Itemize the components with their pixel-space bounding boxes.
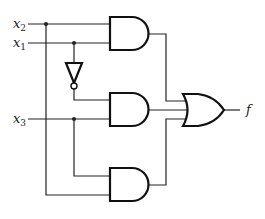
or-gate xyxy=(183,94,224,126)
label-x2: x2 xyxy=(13,16,26,33)
not-gate xyxy=(66,63,82,83)
and-gate-2 xyxy=(110,93,149,126)
not-bubble xyxy=(71,83,77,89)
junction-x1 xyxy=(72,41,76,45)
label-x3: x3 xyxy=(13,111,26,128)
label-x1: x1 xyxy=(13,35,26,52)
junction-x2 xyxy=(44,22,48,26)
label-f: f xyxy=(245,102,253,117)
and-gate-1 xyxy=(110,17,149,50)
and-gate-3 xyxy=(110,168,149,201)
wire-and3-out xyxy=(148,119,187,185)
logic-circuit-diagram: x2 x1 x3 f xyxy=(0,0,265,219)
wire-x3-branch xyxy=(74,119,110,176)
wire-and1-out xyxy=(148,34,187,101)
wire-not-out xyxy=(74,89,110,100)
wire-x2-branch xyxy=(46,24,110,195)
junction-x3 xyxy=(72,117,76,121)
